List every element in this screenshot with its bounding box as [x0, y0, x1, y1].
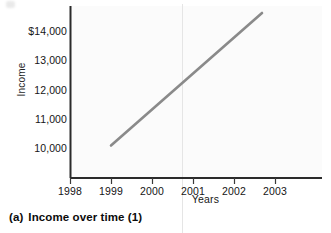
figure-caption: (a)Income over time (1) — [9, 211, 142, 223]
x-axis-title-wrap: Years — [0, 193, 331, 205]
figure-caption-text: Income over time (1) — [28, 211, 142, 223]
figure-caption-id: (a) — [9, 211, 23, 223]
x-axis-title: Years — [192, 193, 219, 205]
figure-income-over-time: $14,000 13,000 12,000 11,000 10,000 Inco… — [0, 0, 331, 233]
